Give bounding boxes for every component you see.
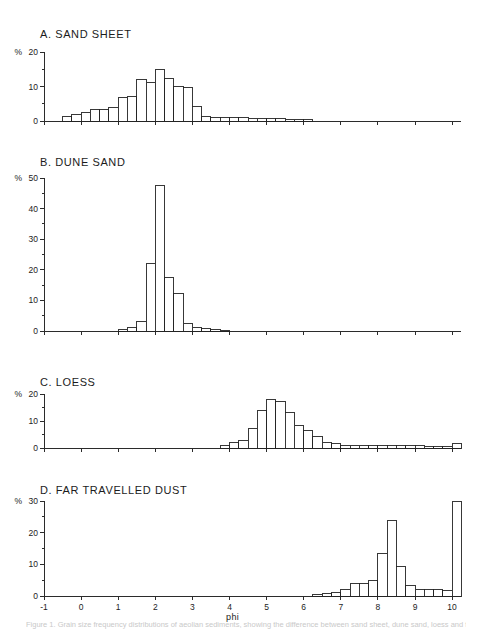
histogram-bar	[192, 107, 201, 121]
histogram-bar	[378, 553, 387, 596]
x-tick-label: -1	[40, 602, 48, 612]
histogram-bar	[294, 425, 303, 448]
histogram-bar	[424, 446, 433, 448]
histogram-bar	[220, 118, 229, 121]
histogram-bar	[165, 277, 174, 331]
histogram-bar	[257, 410, 266, 448]
x-tick-label: 1	[116, 602, 121, 612]
histogram-bar	[313, 595, 322, 596]
y-tick-label: 20	[29, 47, 39, 57]
histogram-bar	[248, 118, 257, 121]
histogram-bar	[137, 322, 146, 331]
histogram-bar	[127, 328, 136, 331]
histogram-bar	[452, 443, 461, 448]
y-axis-unit-label: %	[14, 47, 22, 57]
histogram-bar	[220, 446, 229, 448]
histogram-bar	[304, 430, 313, 448]
histogram-bar	[118, 329, 127, 331]
histogram-bar	[369, 580, 378, 596]
histogram-bar	[100, 110, 109, 121]
histogram-bar	[118, 98, 127, 121]
histogram-bar	[146, 82, 155, 121]
histogram-bar	[387, 446, 396, 448]
histogram-bar	[239, 441, 248, 448]
histogram-bar	[63, 117, 72, 121]
figure-caption: Figure 1. Grain size frequency distribut…	[26, 620, 466, 629]
histogram-bar	[127, 97, 136, 121]
histogram-bar	[72, 115, 81, 121]
x-tick-label: 5	[264, 602, 269, 612]
histogram-bar	[434, 590, 443, 596]
histogram-bar	[285, 119, 294, 121]
histogram-bar	[341, 589, 350, 596]
x-tick-label: 10	[447, 602, 457, 612]
histogram-bar	[90, 110, 99, 121]
histogram-bar	[239, 118, 248, 121]
histogram-bar	[165, 78, 174, 121]
histogram-bar	[424, 590, 433, 596]
x-tick-label: 4	[227, 602, 232, 612]
histogram-bar	[369, 446, 378, 448]
x-tick-label: 6	[301, 602, 306, 612]
histogram-bar	[137, 80, 146, 121]
histogram-bar	[267, 119, 276, 121]
x-tick-label: 0	[79, 602, 84, 612]
histogram-bar	[332, 444, 341, 448]
y-tick-label: 10	[29, 416, 39, 426]
histogram-bar	[313, 437, 322, 448]
histogram-bar	[387, 521, 396, 596]
histogram-bar	[359, 445, 368, 448]
y-tick-label: 20	[29, 265, 39, 275]
histogram-bar	[396, 446, 405, 448]
histogram-bar	[341, 445, 350, 448]
histogram-bar	[322, 442, 331, 448]
x-tick-label: 8	[376, 602, 381, 612]
histogram-bar	[183, 88, 192, 121]
histogram-bar	[350, 583, 359, 596]
histogram-bar	[332, 593, 341, 596]
plot-area-d: 0102030%-1012345678910	[0, 0, 481, 629]
histogram-bar	[81, 113, 90, 121]
plot-area-a: 01020%	[0, 0, 481, 629]
histogram-bar	[155, 69, 164, 121]
plot-area-b: 01020304050%	[0, 0, 481, 629]
x-tick-label: 9	[413, 602, 418, 612]
histogram-bar	[443, 446, 452, 448]
x-tick-label: 7	[338, 602, 343, 612]
histogram-bar	[359, 584, 368, 596]
plot-area-c: 01020%	[0, 0, 481, 629]
histogram-bar	[174, 293, 183, 331]
figure-panel-group: A. SAND SHEET01020%B. DUNE SAND010203040…	[0, 0, 481, 629]
histogram-bar	[230, 443, 239, 448]
histogram-bar	[183, 323, 192, 331]
histogram-bar	[406, 585, 415, 596]
y-tick-label: 30	[29, 496, 39, 506]
histogram-bar	[285, 413, 294, 448]
histogram-bar	[452, 501, 461, 596]
y-tick-label: 10	[29, 295, 39, 305]
y-axis-unit-label: %	[14, 389, 22, 399]
y-tick-label: 40	[29, 204, 39, 214]
y-tick-label: 30	[29, 234, 39, 244]
y-axis-unit-label: %	[14, 173, 22, 183]
panel-title-a: A. SAND SHEET	[40, 28, 132, 40]
histogram-bar	[202, 117, 211, 121]
y-tick-label: 20	[29, 528, 39, 538]
histogram-bar	[257, 118, 266, 121]
histogram-bar	[406, 446, 415, 448]
histogram-bar	[434, 446, 443, 448]
histogram-bar	[211, 329, 220, 331]
histogram-bar	[211, 118, 220, 121]
histogram-bar	[267, 399, 276, 448]
histogram-bar	[230, 118, 239, 121]
histogram-bar	[350, 445, 359, 448]
y-tick-label: 0	[33, 591, 38, 601]
y-tick-label: 0	[33, 443, 38, 453]
panel-title-c: C. LOESS	[40, 376, 96, 388]
panel-title-d: D. FAR TRAVELLED DUST	[40, 484, 187, 496]
histogram-bar	[248, 428, 257, 448]
histogram-bar	[202, 329, 211, 331]
x-tick-label: 3	[190, 602, 195, 612]
y-tick-label: 10	[29, 559, 39, 569]
histogram-bar	[276, 119, 285, 121]
